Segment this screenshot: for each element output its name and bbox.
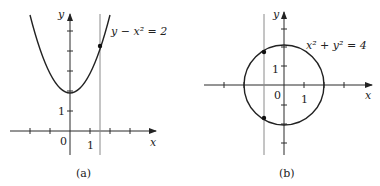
figure-canvas: y x 0 1 1 y − x² = 2 (a) [0, 0, 380, 186]
panel-a: y x 0 1 1 y − x² = 2 (a) [10, 8, 167, 180]
x-tick-label: 1 [87, 139, 94, 152]
y-axis-label: y [57, 8, 65, 21]
intersection-point-upper [262, 50, 266, 54]
y-axis-label: y [272, 8, 280, 21]
equation-label: x² + y² = 4 [306, 39, 367, 52]
y-tick-label: 1 [272, 63, 279, 76]
origin-label: 0 [274, 89, 281, 102]
y-tick-label: 1 [58, 105, 65, 118]
x-axis-label: x [365, 89, 372, 102]
intersection-point-lower [262, 116, 266, 120]
equation-label: y − x² = 2 [110, 25, 167, 38]
x-axis-label: x [150, 136, 157, 149]
x-tick-label: 1 [301, 93, 308, 106]
caption-a: (a) [76, 167, 91, 180]
origin-label: 0 [60, 135, 67, 148]
caption-b: (b) [279, 167, 295, 180]
intersection-point [98, 44, 102, 48]
panel-b: y x 0 1 1 x² + y² = 4 (b) [204, 8, 372, 180]
